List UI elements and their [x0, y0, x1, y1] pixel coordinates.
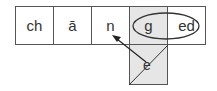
group-ellipse: [133, 13, 199, 39]
strike-line: [129, 45, 168, 85]
spelling-diagram: ch ā n g ed e: [0, 0, 217, 91]
annotation-overlay: [0, 0, 217, 91]
arrow-line: [117, 39, 146, 62]
